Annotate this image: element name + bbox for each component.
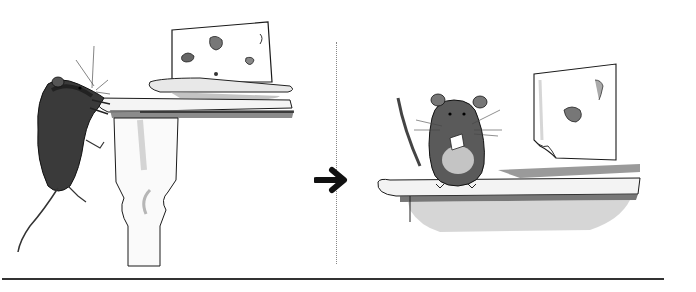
baseline-rule [2,278,664,280]
mouse-ear [52,77,64,87]
table-top [96,98,294,118]
illustration-mouse-climbing [0,0,330,275]
panel-after [340,0,696,275]
mouse-climbing [18,46,110,252]
panel-before [0,0,330,275]
cheese-icon [534,64,616,160]
illustration-mouse-eating [340,0,696,275]
cheese-icon [172,22,272,82]
mouse-ear [431,94,445,106]
table-leg [114,118,178,266]
mouse-eating [398,94,502,188]
mouse-tail [398,98,420,166]
panel-divider [336,42,337,264]
mouse-ear [473,96,487,108]
table-top [378,164,640,232]
